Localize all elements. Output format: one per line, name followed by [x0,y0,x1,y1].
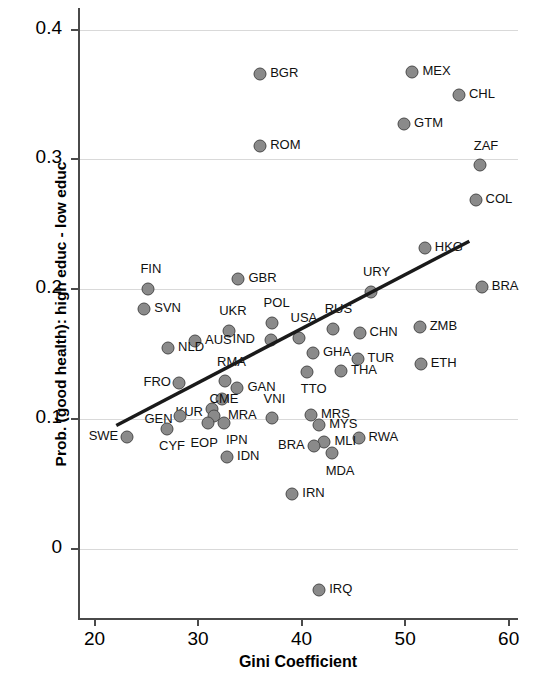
y-axis-line [78,8,80,620]
x-tick-label: 50 [375,628,435,650]
x-tick-label: 30 [168,628,228,650]
x-tick-label: 20 [65,628,125,650]
x-tick-label: 40 [272,628,332,650]
scatter-plot-figure: 00.10.20.30.4 2030405060 BGRMEXCHLGTMROM… [0,0,535,680]
x-tick-label: 60 [479,628,535,650]
plot-area: 00.10.20.30.4 2030405060 BGRMEXCHLGTMROM… [78,8,518,620]
fit-line [78,8,518,620]
x-axis-line [78,618,518,620]
y-axis-title: Prob. (good health): high educ - low edu… [52,8,74,620]
x-axis-title: Gini Coefficient [78,653,518,671]
